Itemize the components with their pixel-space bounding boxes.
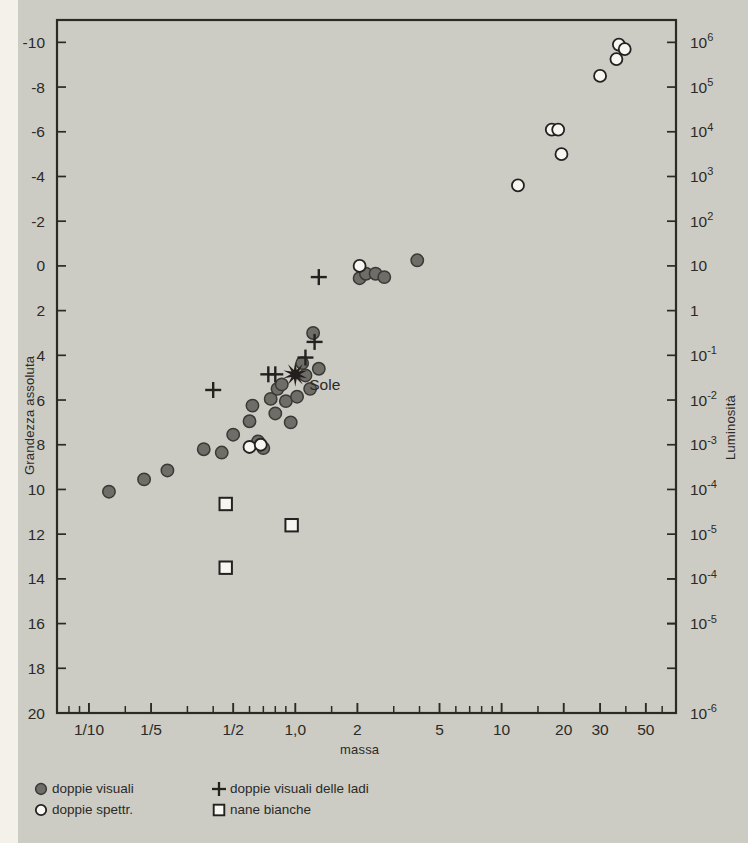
data-point [307, 327, 319, 339]
y-tick-label-left: 20 [28, 705, 46, 722]
power-base: 10 [690, 257, 708, 274]
y-tick-label-left: 18 [28, 660, 45, 677]
data-point [411, 254, 423, 266]
power-exponent: 2 [707, 210, 713, 222]
data-point [138, 473, 150, 485]
legend-item: doppie spettr. [30, 801, 208, 819]
power-exponent: 5 [707, 76, 713, 88]
y-tick-label-left: 8 [36, 436, 45, 453]
y-tick-label-left: 14 [28, 570, 46, 587]
y-tick-label-left: -8 [31, 79, 45, 96]
legend-label: doppie visuali [52, 781, 134, 796]
x-tick-label: 10 [493, 721, 511, 738]
y-tick-label-right: 102 [690, 210, 713, 230]
legend-label: nane bianche [230, 802, 311, 817]
power-exponent: -2 [707, 389, 717, 401]
chart-legend: doppie visualidoppie visuali delle ladid… [30, 778, 450, 820]
power-exponent: -5 [707, 523, 717, 535]
data-point [255, 439, 267, 451]
power-base: 10 [690, 213, 708, 230]
y-tick-label-left: 16 [28, 615, 45, 632]
y-tick-label-right: 10-4 [690, 478, 717, 498]
data-point [103, 485, 115, 497]
y-tick-label-left: 4 [36, 347, 45, 364]
power-exponent: -3 [707, 434, 717, 446]
y-tick-label-left: 6 [36, 392, 45, 409]
data-point [216, 446, 228, 458]
power-exponent: -4 [707, 478, 717, 490]
sun-label: Sole [309, 376, 340, 393]
x-tick-label: 20 [555, 721, 573, 738]
mass-luminosity-figure: -10-8-6-4-202468101214161820106105104103… [0, 0, 748, 843]
power-base: 10 [690, 481, 708, 498]
legend-item: doppie visuali [30, 780, 208, 798]
data-point [311, 269, 327, 285]
data-point [198, 443, 210, 455]
y-tick-label-right: 104 [690, 121, 713, 141]
power-base: 10 [690, 436, 708, 453]
y-tick-label-left: -4 [31, 168, 45, 185]
power-exponent: 4 [707, 121, 713, 133]
data-point [227, 428, 239, 440]
legend-glyph-open-circle [32, 801, 50, 819]
scatter-plot-canvas: -10-8-6-4-202468101214161820106105104103… [0, 0, 748, 843]
legend-label: doppie spettr. [52, 802, 133, 817]
power-base: 10 [690, 168, 708, 185]
y-tick-label-right: 10-5 [690, 613, 717, 633]
y-tick-label-left: 2 [36, 302, 45, 319]
data-point [269, 407, 281, 419]
data-point [243, 415, 255, 427]
data-point [244, 441, 256, 453]
data-point [594, 70, 606, 82]
data-point [161, 464, 173, 476]
data-point [246, 399, 258, 411]
legend-item: doppie visuali delle ladi [208, 780, 369, 798]
data-point [610, 53, 622, 65]
power-exponent: -6 [707, 702, 717, 714]
x-tick-label: 1/2 [222, 721, 244, 738]
data-point [378, 271, 390, 283]
y-tick-label-right: 10-3 [690, 434, 717, 454]
power-exponent: 6 [707, 31, 713, 43]
data-point [619, 43, 631, 55]
legend-glyph-filled-circle [32, 780, 50, 798]
y-tick-label-right: 10-6 [690, 702, 717, 722]
data-point [555, 148, 567, 160]
y-tick-label-left: 12 [28, 526, 45, 543]
power-base: 10 [690, 392, 708, 409]
y-tick-label-left: 10 [28, 481, 46, 498]
data-point [205, 382, 221, 398]
y-tick-label-right: 10-2 [690, 389, 717, 409]
legend-marker-plus-icon [208, 780, 230, 798]
data-point [284, 416, 296, 428]
power-base: 10 [690, 347, 708, 364]
x-tick-label: 1/5 [140, 721, 162, 738]
power-base: 10 [690, 79, 708, 96]
data-point [313, 363, 325, 375]
power-exponent: -5 [707, 613, 717, 625]
y-tick-label-left: -10 [23, 34, 46, 51]
power-exponent: -4 [707, 568, 717, 580]
legend-marker-open-square-icon [208, 801, 230, 819]
y-axis-title-right: Luminosità [723, 395, 738, 460]
power-exponent: -1 [707, 344, 717, 356]
y-tick-label-right: 10-4 [690, 568, 717, 588]
x-tick-label: 2 [353, 721, 362, 738]
y-tick-label-right: 106 [690, 31, 713, 51]
data-point [552, 124, 564, 136]
legend-marker-filled-circle-icon [30, 780, 52, 798]
power-base: 10 [690, 705, 708, 722]
plot-frame [57, 20, 676, 713]
data-point [291, 390, 303, 402]
data-point [512, 179, 524, 191]
x-tick-label: 1/10 [74, 721, 105, 738]
y-tick-label-left: -2 [31, 213, 45, 230]
data-point [220, 498, 232, 510]
y-tick-label-right: 10 [690, 257, 708, 274]
power-exponent: 3 [707, 165, 713, 177]
x-tick-label: 5 [435, 721, 444, 738]
y-tick-label-right: 10-1 [690, 344, 717, 364]
legend-row: doppie visualidoppie visuali delle ladi [30, 778, 450, 799]
data-point [276, 378, 288, 390]
legend-label: doppie visuali delle ladi [230, 781, 369, 796]
